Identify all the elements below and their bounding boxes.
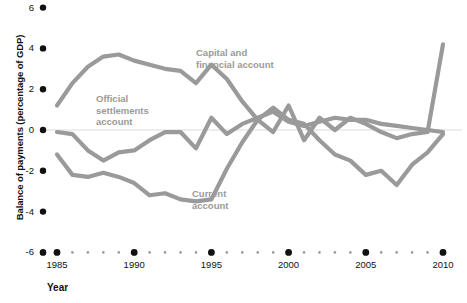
x-tick-dot-minor xyxy=(411,251,414,254)
x-tick-label: 1985 xyxy=(37,259,77,270)
x-tick-dot-minor xyxy=(164,251,167,254)
x-tick-dot-major xyxy=(285,249,292,256)
x-tick-dot-minor xyxy=(272,251,275,254)
x-tick-dot-major xyxy=(208,249,215,256)
y-tick-dot xyxy=(40,45,46,51)
x-tick-label: 2005 xyxy=(346,259,386,270)
series-label-current-account: Current account xyxy=(192,188,228,211)
x-axis-title: Year xyxy=(47,282,68,293)
x-tick-label: 1990 xyxy=(114,259,154,270)
official-label-line1: Official xyxy=(96,93,149,105)
x-tick-dot-minor xyxy=(318,251,321,254)
y-tick-dot xyxy=(40,86,46,92)
x-tick-dot-minor xyxy=(426,251,429,254)
x-tick-dot-minor xyxy=(334,251,337,254)
capital-label-line1: Capital and xyxy=(196,47,274,59)
x-tick-label: 2000 xyxy=(269,259,309,270)
y-tick-label: 2 xyxy=(12,83,34,94)
x-axis-tick-dots xyxy=(40,249,447,256)
x-tick-dot-minor xyxy=(380,251,383,254)
x-tick-dot-major xyxy=(440,249,447,256)
x-tick-dot-minor xyxy=(226,251,229,254)
x-tick-label: 2010 xyxy=(423,259,463,270)
series-label-capital-financial-account: Capital and financial account xyxy=(196,47,274,70)
x-tick-dot-minor xyxy=(241,251,244,254)
chart-plot-area xyxy=(0,0,467,303)
x-tick-dot-minor xyxy=(102,251,105,254)
x-tick-dot-major xyxy=(54,249,61,256)
y-axis-tick-dots xyxy=(40,4,46,255)
x-tick-dot-minor xyxy=(195,251,198,254)
x-tick-dot-minor xyxy=(256,251,259,254)
y-tick-dot xyxy=(40,208,46,214)
current-label-line1: Current xyxy=(192,188,228,200)
y-tick-label: 0 xyxy=(12,124,34,135)
x-tick-dot-minor xyxy=(87,251,90,254)
x-tick-dot-major xyxy=(131,249,138,256)
official-label-line3: account xyxy=(96,116,149,128)
x-tick-dot-minor xyxy=(117,251,120,254)
y-tick-dot xyxy=(40,127,46,133)
x-tick-dot-minor xyxy=(303,251,306,254)
x-tick-dot-major xyxy=(362,249,369,256)
y-tick-dot xyxy=(40,168,46,174)
x-tick-dot-minor xyxy=(148,251,151,254)
official-label-line2: settlements xyxy=(96,105,149,117)
y-tick-label: -6 xyxy=(12,246,34,257)
capital-label-line2: financial account xyxy=(196,59,274,71)
y-tick-dot xyxy=(40,4,46,10)
y-tick-label: -4 xyxy=(12,206,34,217)
axis-origin-dot xyxy=(40,249,46,255)
x-tick-dot-minor xyxy=(71,251,74,254)
series-label-official-settlements-account: Official settlements account xyxy=(96,93,149,128)
chart-container: Balance of payments (percentage of GDP) … xyxy=(0,0,467,303)
x-tick-label: 1995 xyxy=(191,259,231,270)
x-tick-dot-minor xyxy=(395,251,398,254)
x-tick-dot-minor xyxy=(179,251,182,254)
current-label-line2: account xyxy=(192,200,228,212)
y-tick-label: -2 xyxy=(12,165,34,176)
y-tick-label: 6 xyxy=(12,2,34,13)
x-tick-dot-minor xyxy=(349,251,352,254)
y-tick-label: 4 xyxy=(12,42,34,53)
